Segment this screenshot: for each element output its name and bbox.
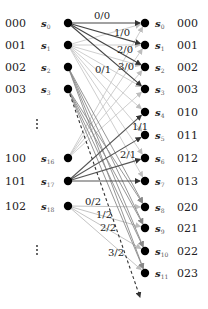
state-label: s10 bbox=[155, 246, 168, 258]
state-label: s3 bbox=[41, 84, 51, 96]
edge-label: 3/2 bbox=[108, 247, 124, 258]
state-code: 001 bbox=[5, 39, 26, 52]
state-transition-diagram: 0/01/02/03/00/11/12/10/21/22/23/2 s0000s… bbox=[0, 0, 208, 309]
state-node bbox=[141, 247, 149, 255]
state-code: 002 bbox=[5, 61, 26, 74]
state-code: 000 bbox=[177, 17, 198, 30]
state-code: 003 bbox=[177, 83, 198, 96]
state-label: s9 bbox=[155, 223, 165, 235]
state-label: s0 bbox=[155, 18, 165, 30]
state-node bbox=[141, 63, 149, 71]
state-label: s17 bbox=[41, 176, 54, 188]
state-label: s8 bbox=[155, 202, 165, 214]
state-label: s1 bbox=[155, 40, 164, 52]
state-node bbox=[64, 154, 72, 162]
edge-label: 1/2 bbox=[96, 209, 112, 220]
dashed-continuation-arrow bbox=[68, 89, 140, 297]
state-node bbox=[64, 85, 72, 93]
state-code: 001 bbox=[177, 39, 198, 52]
state-code: 022 bbox=[177, 245, 198, 258]
state-node bbox=[141, 154, 149, 162]
edge-label: 0/0 bbox=[94, 10, 110, 21]
edge-label: 0/1 bbox=[95, 64, 111, 75]
edge-label: 2/0 bbox=[117, 44, 133, 55]
state-label: s1 bbox=[41, 40, 50, 52]
edge-label: 3/0 bbox=[118, 61, 134, 72]
state-label: s5 bbox=[155, 130, 165, 142]
state-label: s11 bbox=[155, 268, 168, 280]
state-label: s16 bbox=[41, 153, 54, 165]
state-node bbox=[141, 108, 149, 116]
edge-label: 2/1 bbox=[120, 149, 136, 160]
state-code: 020 bbox=[177, 201, 198, 214]
state-node bbox=[141, 131, 149, 139]
state-code: 101 bbox=[5, 175, 26, 188]
vertical-ellipsis bbox=[36, 119, 38, 255]
state-node bbox=[141, 41, 149, 49]
transition-edge bbox=[68, 89, 142, 203]
state-code: 100 bbox=[5, 152, 26, 165]
edge-label: 1/1 bbox=[132, 121, 148, 132]
state-code: 010 bbox=[177, 106, 198, 119]
state-label: s0 bbox=[41, 18, 51, 30]
state-code: 000 bbox=[5, 17, 26, 30]
state-label: s18 bbox=[41, 201, 54, 213]
state-label: s6 bbox=[155, 153, 165, 165]
edge-label: 1/0 bbox=[114, 27, 130, 38]
ellipsis-dot bbox=[36, 249, 38, 251]
edge-label: 2/2 bbox=[100, 222, 116, 233]
state-code: 002 bbox=[177, 61, 198, 74]
state-node bbox=[141, 224, 149, 232]
ellipsis-dot bbox=[36, 127, 38, 129]
state-node bbox=[64, 19, 72, 27]
state-code: 102 bbox=[5, 200, 26, 213]
state-label: s7 bbox=[155, 176, 165, 188]
state-code: 023 bbox=[177, 267, 198, 280]
state-node bbox=[64, 41, 72, 49]
state-label: s2 bbox=[155, 62, 165, 74]
edge-label: 0/2 bbox=[85, 196, 101, 207]
state-code: 013 bbox=[177, 175, 198, 188]
transition-edge bbox=[68, 67, 143, 203]
state-node bbox=[141, 85, 149, 93]
state-node bbox=[64, 63, 72, 71]
state-node bbox=[64, 177, 72, 185]
state-code: 011 bbox=[177, 129, 198, 142]
transition-edge bbox=[68, 206, 140, 207]
ellipsis-dot bbox=[36, 123, 38, 125]
state-label: s3 bbox=[155, 84, 165, 96]
ellipsis-dot bbox=[36, 253, 38, 255]
state-label: s2 bbox=[41, 62, 51, 74]
state-node bbox=[141, 269, 149, 277]
transition-edge bbox=[68, 45, 142, 131]
state-node bbox=[141, 19, 149, 27]
state-code: 021 bbox=[177, 222, 198, 235]
state-node bbox=[141, 203, 149, 211]
left-state-column: s0000s1001s2002s3003s16100s17101s18102 bbox=[5, 17, 72, 213]
state-node bbox=[141, 177, 149, 185]
transition-edge bbox=[68, 89, 143, 268]
state-label: s4 bbox=[155, 107, 165, 119]
right-state-column: s0000s1001s2002s3003s4010s5011s6012s7013… bbox=[141, 17, 198, 280]
ellipsis-dot bbox=[36, 245, 38, 247]
state-code: 012 bbox=[177, 152, 198, 165]
state-node bbox=[64, 202, 72, 210]
ellipsis-dot bbox=[36, 119, 38, 121]
dashed-arrow bbox=[68, 89, 140, 297]
state-code: 003 bbox=[5, 83, 26, 96]
